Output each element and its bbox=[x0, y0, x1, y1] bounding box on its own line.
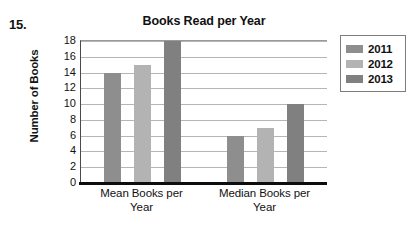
bar bbox=[164, 41, 181, 183]
bar bbox=[104, 73, 121, 183]
y-tick-label: 4 bbox=[52, 145, 76, 156]
legend: 201120122013 bbox=[340, 35, 406, 92]
legend-label: 2012 bbox=[368, 58, 393, 70]
y-tick-label: 0 bbox=[52, 177, 76, 188]
bar bbox=[134, 65, 151, 183]
y-tick-label: 10 bbox=[52, 98, 76, 109]
y-tick-label: 8 bbox=[52, 113, 76, 124]
x-axis-baseline bbox=[79, 182, 327, 185]
legend-label: 2011 bbox=[368, 43, 392, 55]
x-axis-group-label-line: Median Books per bbox=[191, 187, 338, 201]
y-tick-label: 2 bbox=[52, 161, 76, 172]
y-axis-title: Number of Books bbox=[28, 41, 40, 151]
y-tick-label: 14 bbox=[52, 66, 76, 77]
legend-label: 2013 bbox=[368, 73, 393, 85]
x-axis-group-label-line: Year bbox=[191, 201, 338, 215]
legend-swatch bbox=[346, 60, 363, 68]
legend-item: 2013 bbox=[346, 71, 401, 86]
y-tick-label: 16 bbox=[52, 50, 76, 61]
legend-swatch bbox=[346, 45, 363, 53]
bar bbox=[257, 128, 274, 183]
y-tick-label: 18 bbox=[52, 35, 76, 46]
legend-item: 2011 bbox=[346, 41, 401, 56]
bar bbox=[227, 136, 244, 183]
y-tick-label: 12 bbox=[52, 82, 76, 93]
chart-figure: 15. Books Read per Year Number of Books … bbox=[0, 0, 419, 228]
legend-item: 2012 bbox=[346, 56, 401, 71]
chart-title: Books Read per Year bbox=[80, 14, 328, 28]
x-axis-group-label: Median Books perYear bbox=[191, 187, 338, 214]
y-axis-tick-labels: 024681012141618 bbox=[52, 33, 76, 189]
plot-area bbox=[80, 40, 327, 183]
question-number: 15. bbox=[9, 17, 26, 32]
gridline bbox=[81, 41, 327, 42]
gridline bbox=[81, 57, 327, 58]
y-tick-label: 6 bbox=[52, 129, 76, 140]
bar bbox=[287, 104, 304, 183]
legend-swatch bbox=[346, 75, 363, 83]
